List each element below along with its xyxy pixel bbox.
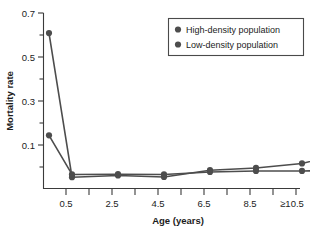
y-tick-label-0_1: 0.1 bbox=[22, 140, 35, 151]
data-point bbox=[161, 171, 167, 177]
data-point bbox=[207, 169, 213, 175]
data-point bbox=[299, 168, 305, 174]
x-tick-label-4_5: 4.5 bbox=[151, 198, 164, 209]
x-axis-title: Age (years) bbox=[152, 215, 204, 226]
data-point bbox=[253, 168, 259, 174]
x-tick-label-0_5: 0.5 bbox=[59, 198, 72, 209]
y-tick-label-0_7: 0.7 bbox=[22, 8, 35, 19]
legend-marker-high-density-icon bbox=[175, 26, 181, 32]
data-point bbox=[46, 30, 52, 36]
legend-label-high-density: High-density population bbox=[186, 25, 280, 35]
data-point bbox=[69, 171, 75, 177]
x-tick-label-10_5: ≥10.5 bbox=[280, 198, 304, 209]
x-tick-label-6_5: 6.5 bbox=[197, 198, 210, 209]
data-point bbox=[46, 132, 52, 138]
y-tick-label-0_3: 0.3 bbox=[22, 96, 35, 107]
data-point bbox=[115, 171, 121, 177]
y-axis-title: Mortality rate bbox=[4, 71, 15, 131]
legend-label-low-density: Low-density population bbox=[186, 40, 278, 50]
mortality-rate-line-chart: 0.7 0.5 0.3 0.1 Mortality rate 0.5 2.5 4… bbox=[0, 0, 310, 231]
data-point bbox=[299, 160, 305, 166]
legend-marker-low-density-icon bbox=[175, 41, 181, 47]
chart-legend: High-density population Low-density popu… bbox=[169, 19, 304, 56]
y-tick-label-0_5: 0.5 bbox=[22, 52, 35, 63]
x-tick-label-2_5: 2.5 bbox=[105, 198, 118, 209]
x-tick-label-8_5: 8.5 bbox=[243, 198, 256, 209]
